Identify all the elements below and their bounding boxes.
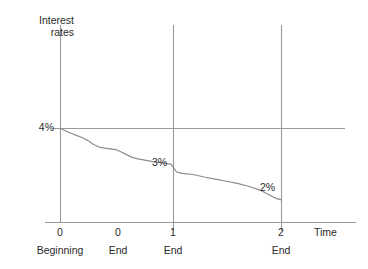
y-axis-title-line-2: rates bbox=[8, 26, 74, 38]
x-tick-label-2: 2 bbox=[266, 226, 296, 238]
interest-rate-chart: Interest rates 4% 3% 2% 0 0 1 2 Beginnin… bbox=[0, 0, 368, 269]
y-axis-title-line-1: Interest bbox=[8, 14, 74, 26]
interest-rate-curve bbox=[61, 129, 282, 200]
annotation-2pct: 2% bbox=[260, 181, 275, 193]
x-sublabel-end-2: End bbox=[246, 244, 316, 256]
x-sublabel-end-1: End bbox=[138, 244, 208, 256]
annotation-3pct: 3% bbox=[152, 156, 167, 168]
x-axis-title: Time bbox=[314, 226, 358, 238]
x-tick-label-1: 1 bbox=[158, 226, 188, 238]
x-tick-label-0-beginning: 0 bbox=[45, 226, 75, 238]
x-tick-label-0-end: 0 bbox=[103, 226, 133, 238]
y-axis-title: Interest rates bbox=[8, 14, 74, 38]
y-tick-label-4pct: 4% bbox=[22, 121, 54, 133]
